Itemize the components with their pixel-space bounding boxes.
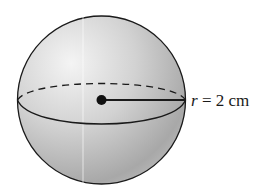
radius-value: 2 cm	[216, 91, 250, 110]
radius-equals: =	[198, 91, 216, 110]
center-point	[97, 95, 107, 105]
sphere-diagram: r = 2 cm	[0, 0, 267, 186]
radius-label: r = 2 cm	[191, 91, 249, 110]
